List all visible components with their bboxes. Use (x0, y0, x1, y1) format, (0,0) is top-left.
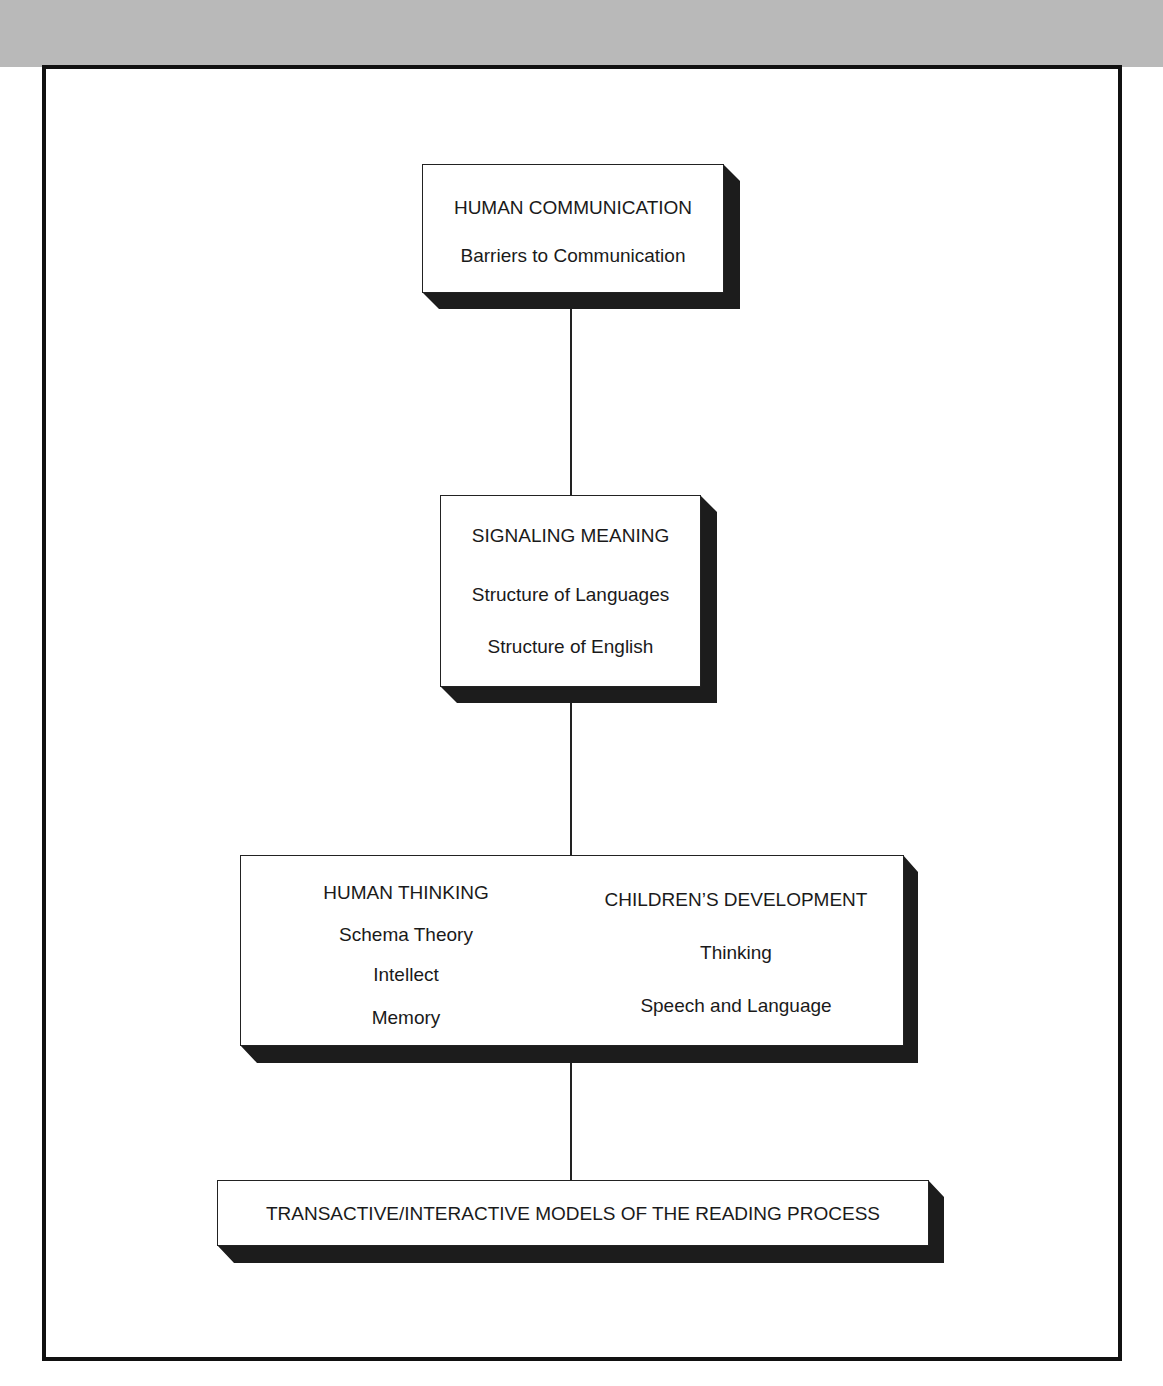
box-title: TRANSACTIVE/INTERACTIVE MODELS OF THE RE… (218, 1203, 928, 1225)
box-human-communication: HUMAN COMMUNICATION Barriers to Communic… (422, 164, 724, 293)
column-human-thinking: HUMAN THINKING Schema Theory Intellect M… (281, 856, 531, 1046)
connector-3-4 (570, 1063, 572, 1180)
box-thinking-development: HUMAN THINKING Schema Theory Intellect M… (240, 855, 904, 1046)
connector-2-3 (570, 703, 572, 855)
box-reading-models: TRANSACTIVE/INTERACTIVE MODELS OF THE RE… (217, 1180, 929, 1246)
column-childrens-development: CHILDREN’S DEVELOPMENT Thinking Speech a… (581, 856, 891, 1046)
column-title: CHILDREN’S DEVELOPMENT (581, 889, 891, 911)
column-title: HUMAN THINKING (281, 882, 531, 904)
connector-1-2 (570, 309, 572, 495)
column-item: Schema Theory (281, 924, 531, 946)
box-item: Structure of English (441, 636, 700, 658)
box-item: Barriers to Communication (423, 245, 723, 267)
column-item: Thinking (581, 942, 891, 964)
column-item: Speech and Language (581, 995, 891, 1017)
box-item: Structure of Languages (441, 584, 700, 606)
box-title: HUMAN COMMUNICATION (423, 197, 723, 219)
column-item: Memory (281, 1007, 531, 1029)
box-signaling-meaning: SIGNALING MEANING Structure of Languages… (440, 495, 701, 687)
box-title: SIGNALING MEANING (441, 525, 700, 547)
top-gray-band (0, 0, 1163, 67)
column-item: Intellect (281, 964, 531, 986)
